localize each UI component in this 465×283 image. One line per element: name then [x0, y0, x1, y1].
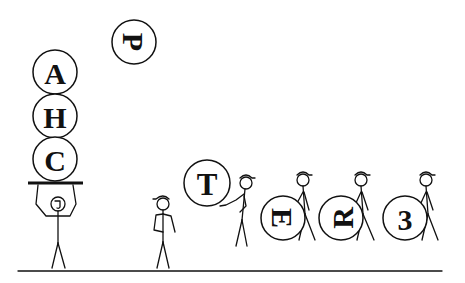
stick-figure-onlooker [153, 196, 175, 268]
ball-letter: C [44, 144, 66, 177]
ball-h: H [33, 94, 77, 138]
ball-p: P [112, 20, 156, 64]
ball-r: R [319, 196, 363, 240]
ball-letter: E [266, 208, 299, 228]
ball-letter: P [117, 33, 150, 51]
comic-scene: PAHCTER3 [0, 0, 465, 283]
ball-3: 3 [383, 196, 427, 240]
ball-t: T [184, 160, 230, 206]
letter-balls: PAHCTER3 [33, 20, 427, 240]
ball-letter: A [44, 57, 66, 90]
ball-a: A [33, 50, 77, 94]
stick-figure-lifter [28, 183, 83, 268]
ball-letter: H [43, 101, 66, 134]
scene-svg: PAHCTER3 [0, 0, 465, 283]
ball-letter: R [326, 207, 359, 229]
ball-letter: 3 [398, 203, 413, 236]
ball-c: C [33, 137, 77, 181]
ball-e: E [261, 196, 305, 240]
ball-letter: T [197, 167, 218, 202]
